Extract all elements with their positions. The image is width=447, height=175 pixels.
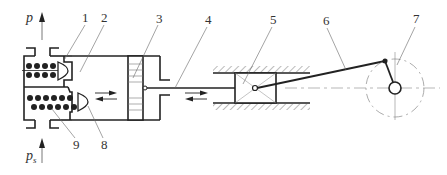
label-5-crosshead: 5 — [270, 12, 277, 27]
discharge-arrow — [39, 12, 45, 40]
label-8-suction-valve: 8 — [101, 137, 108, 152]
piston — [128, 56, 147, 120]
label-6-connecting-rod: 6 — [323, 13, 330, 28]
crosshead — [235, 73, 276, 103]
discharge-valve — [58, 62, 68, 80]
suction-arrow — [39, 138, 45, 163]
rod-motion-arrows — [185, 91, 208, 102]
suction-valve-spring — [27, 95, 77, 110]
label-7-crankshaft: 7 — [413, 11, 420, 26]
suction-pressure-label: ps — [25, 148, 37, 165]
suction-valve — [78, 93, 88, 111]
valve-chest — [24, 48, 72, 128]
compressor-diagram: p ps — [0, 0, 447, 175]
label-3-piston: 3 — [156, 11, 163, 26]
crankshaft — [366, 52, 424, 120]
label-2-cylinder: 2 — [101, 10, 108, 25]
discharge-valve-spring — [22, 63, 58, 78]
label-4-piston-rod: 4 — [205, 12, 212, 27]
label-1-discharge-valve: 1 — [82, 10, 89, 25]
discharge-pressure-label: p — [25, 10, 33, 25]
leader-lines — [52, 25, 415, 138]
gas-flow-arrows — [95, 91, 117, 102]
label-9-valve-spring: 9 — [73, 137, 80, 152]
